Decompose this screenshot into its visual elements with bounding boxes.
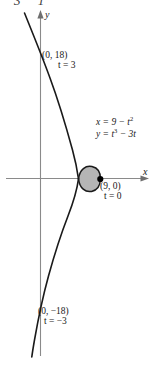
- x-axis-label: x: [143, 166, 147, 177]
- shaded-loop-region: [79, 166, 101, 191]
- equation-x-exponent: 2: [130, 115, 133, 122]
- equation-y-lhs: y = t: [96, 129, 114, 139]
- label-param-top: t = 3: [58, 60, 76, 72]
- parametric-curve-figure: 3 1 (0, 18) t = 3 x = 9 − t2 y = t3 − 3t…: [0, 0, 156, 368]
- label-param-right: t = 0: [104, 191, 122, 203]
- equation-y-of-t: y = t3 − 3t: [96, 129, 136, 141]
- y-axis-label: y: [45, 9, 49, 20]
- equation-x-lhs: x = 9 − t: [96, 117, 130, 127]
- curve-upper-branch: [25, 13, 79, 179]
- curve-lower-branch: [32, 179, 79, 357]
- label-param-bottom: t = −3: [44, 316, 67, 328]
- equation-y-rhs: − 3t: [117, 129, 136, 139]
- y-axis: [37, 10, 43, 356]
- curve-canvas: [0, 0, 156, 368]
